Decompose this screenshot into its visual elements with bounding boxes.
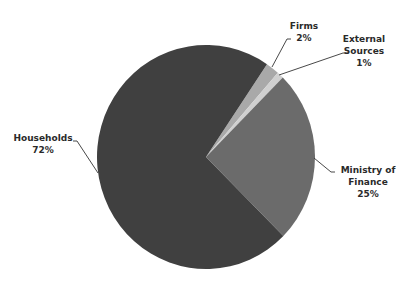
label-external-line1: External [338, 33, 390, 45]
label-ministry-line1: Ministry of [333, 164, 403, 176]
label-external-line2: Sources [338, 45, 390, 57]
label-firms: Firms 2% [286, 20, 322, 44]
label-external-sources: External Sources 1% [338, 33, 390, 69]
pie-slices [97, 45, 315, 269]
label-firms-pct: 2% [286, 32, 322, 44]
label-households: Households 72% [10, 132, 76, 156]
label-ministry-of-finance: Ministry of Finance 25% [333, 164, 403, 200]
label-ministry-line2: Finance [333, 176, 403, 188]
leader-line-households [73, 141, 98, 173]
label-households-name: Households [10, 132, 76, 144]
leader-line-ministry [314, 158, 335, 172]
label-households-pct: 72% [10, 144, 76, 156]
label-ministry-pct: 25% [333, 188, 403, 200]
label-firms-name: Firms [286, 20, 322, 32]
label-external-pct: 1% [338, 57, 390, 69]
